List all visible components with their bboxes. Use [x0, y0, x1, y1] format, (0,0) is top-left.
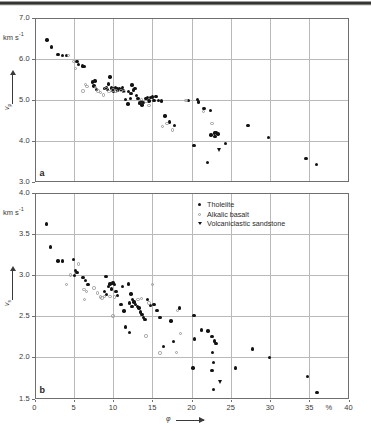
y-axis-tick-label-b: 4.0 [0, 188, 30, 197]
data-point-tholeiite [192, 144, 195, 147]
y-axis-unit-label-a: km s-1 [3, 31, 24, 42]
data-point-alkalic [144, 334, 147, 337]
x-axis-tick-mark [270, 400, 271, 403]
data-point-alkalic [144, 100, 147, 103]
y-axis-tick-label-a: 7.0 [0, 13, 30, 22]
data-point-tholeiite [147, 99, 150, 102]
x-axis-tick-label: 40 [337, 403, 361, 412]
legend-item: Tholeiite [196, 200, 285, 210]
data-point-tholeiite [210, 335, 213, 338]
data-point-tholeiite [152, 99, 155, 102]
x-axis-tick-label: 30 [258, 403, 282, 412]
data-point-alkalic [77, 262, 80, 265]
y-axis-tick-mark-b [32, 193, 35, 194]
data-point-tholeiite [122, 309, 125, 312]
data-point-alkalic [147, 301, 150, 304]
data-point-tholeiite [216, 132, 219, 135]
y-axis-tick-mark-b [32, 275, 35, 276]
legend-item: Volcaniclastic sandstone [196, 219, 285, 229]
data-point-tholeiite [213, 135, 216, 138]
data-point-tholeiite [137, 306, 140, 309]
x-axis-arrow [176, 420, 204, 421]
data-point-tholeiite [130, 305, 133, 308]
data-point-tholeiite [129, 92, 132, 95]
y-axis-tick-label-b: 3.5 [0, 229, 30, 238]
x-axis-tick-label: 5 [62, 403, 86, 412]
y-axis-tick-mark-b [32, 234, 35, 235]
data-point-tholeiite [45, 222, 48, 225]
data-point-tholeiite [169, 319, 172, 322]
data-point-tholeiite [234, 366, 237, 369]
data-point-tholeiite [110, 287, 113, 290]
top-border-band [0, 0, 371, 6]
data-point-alkalic [96, 291, 99, 294]
y-axis-tick-label-b: 2.0 [0, 352, 30, 361]
x-axis-name: φ [166, 415, 171, 422]
gridline-horizontal-a [36, 59, 348, 60]
data-point-tholeiite [56, 259, 59, 262]
data-point-alkalic [85, 290, 88, 293]
data-point-tholeiite [133, 87, 136, 90]
data-point-tholeiite [152, 303, 155, 306]
y-axis-tick-label-b: 2.5 [0, 311, 30, 320]
data-point-alkalic [158, 351, 161, 354]
data-point-tholeiite [119, 303, 122, 306]
x-axis-tick-mark [35, 400, 36, 403]
data-point-tholeiite [45, 38, 48, 41]
data-point-alkalic [114, 89, 117, 92]
data-point-alkalic [81, 89, 84, 92]
x-axis-tick-mark [152, 400, 153, 403]
x-axis-tick-label: 25 [219, 403, 243, 412]
data-point-tholeiite [93, 79, 96, 82]
legend-item-label: Tholeiite [207, 200, 234, 209]
data-point-tholeiite [140, 103, 143, 106]
legend-item-label: Alkalic basalt [207, 210, 249, 219]
data-point-tholeiite [129, 292, 132, 295]
data-point-alkalic [74, 67, 77, 70]
x-axis-tick-label: 35 [297, 403, 321, 412]
legend-marker-sandstone-icon [198, 222, 202, 225]
gridline-horizontal-a [36, 100, 348, 101]
data-point-alkalic [85, 85, 88, 88]
y-axis-tick-label-b: 1.5 [0, 394, 30, 403]
x-axis-tick-label: 20 [180, 403, 204, 412]
y-axis-tick-mark-a [32, 18, 35, 19]
x-axis-unit-percent: % [319, 403, 339, 412]
y-axis-name-b: vs [3, 300, 12, 306]
data-point-tholeiite [143, 318, 146, 321]
y-axis-tick-mark-a [32, 100, 35, 101]
data-point-alkalic [176, 309, 179, 312]
data-point-alkalic [171, 128, 174, 131]
data-point-tholeiite [212, 361, 215, 364]
gridline-vertical-b [152, 194, 153, 398]
data-point-tholeiite [163, 114, 166, 117]
data-point-tholeiite [268, 356, 271, 359]
data-point-tholeiite [107, 82, 110, 85]
data-point-tholeiite [49, 245, 52, 248]
y-axis-tick-label-a: 5.0 [0, 95, 30, 104]
legend-item: Alkalic basalt [196, 210, 285, 220]
data-point-alkalic [92, 286, 95, 289]
y-axis-unit-label-b: km s-1 [3, 206, 24, 217]
data-point-alkalic [122, 90, 125, 93]
x-axis-tick-mark [349, 400, 350, 403]
data-point-alkalic [102, 93, 105, 96]
data-point-tholeiite [191, 366, 194, 369]
chart-legend: TholeiiteAlkalic basaltVolcaniclastic sa… [196, 200, 285, 229]
legend-marker-tholeiite-icon [198, 203, 201, 206]
legend-item-label: Volcaniclastic sandstone [207, 219, 285, 228]
data-point-alkalic [147, 104, 150, 107]
data-point-sandstone [217, 148, 221, 152]
gridline-horizontal-b [36, 357, 348, 358]
data-point-alkalic [140, 98, 143, 101]
data-point-tholeiite [155, 309, 158, 312]
data-point-tholeiite [192, 314, 195, 317]
data-point-tholeiite [108, 75, 111, 78]
panel-label-a: a [40, 168, 45, 178]
panel-label-b: b [40, 385, 46, 395]
x-axis-tick-mark [231, 400, 232, 403]
data-point-tholeiite [304, 157, 307, 160]
data-point-tholeiite [206, 329, 209, 332]
data-point-alkalic [103, 295, 106, 298]
x-axis-tick-label: 0 [23, 403, 47, 412]
